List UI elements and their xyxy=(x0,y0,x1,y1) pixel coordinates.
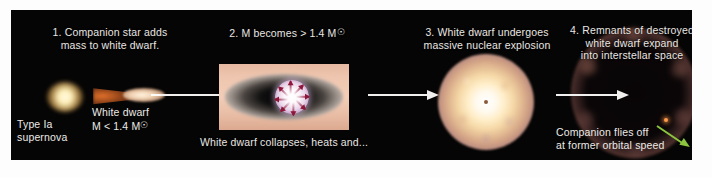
panel-4-caption: Companion flies off at former orbital sp… xyxy=(556,126,665,151)
panel-4-heading: 4. Remnants of destroyed white dwarf exp… xyxy=(554,24,692,62)
companion-star-icon xyxy=(664,118,668,122)
panel-2-heading: 2. M becomes > 1.4 M xyxy=(197,26,377,40)
flow-arrow-3-icon xyxy=(556,94,618,96)
solar-mass-symbol-icon xyxy=(337,27,345,39)
type-ia-supernova-label: Type Ia supernova xyxy=(17,118,67,143)
diagram-stage: 1. Companion star adds mass to white dwa… xyxy=(11,10,692,160)
panel-2-heading-text: 2. M becomes > 1.4 M xyxy=(229,27,336,39)
flow-arrow-1-icon xyxy=(161,94,223,96)
collapsing-white-dwarf-icon xyxy=(275,80,309,114)
explosion-center-dot-icon xyxy=(484,100,488,104)
panel-1-heading: 1. Companion star adds mass to white dwa… xyxy=(25,26,195,51)
accretion-disk-panel xyxy=(219,64,349,130)
panel-2-caption: White dwarf collapses, heats and... xyxy=(189,136,379,149)
supernova-figure: 1. Companion star adds mass to white dwa… xyxy=(0,0,712,178)
solar-mass-symbol-icon xyxy=(140,120,148,132)
flow-arrow-2-icon xyxy=(368,94,428,96)
panel-3-heading: 3. White dwarf undergoes massive nuclear… xyxy=(394,26,580,51)
white-dwarf-mass-label: White dwarf M < 1.4 M xyxy=(92,106,149,132)
red-giant-core-icon xyxy=(47,82,83,112)
